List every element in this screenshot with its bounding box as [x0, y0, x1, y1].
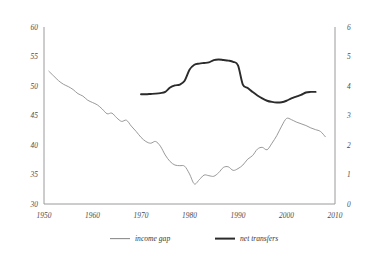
right-tick-label: 5 [347, 52, 351, 61]
series-group [49, 59, 325, 184]
x-tick-label: 2000 [279, 211, 294, 220]
right-tick-label: 2 [347, 141, 351, 150]
right-tick-label: 3 [346, 111, 351, 120]
axes-group [44, 27, 335, 204]
left-tick-label: 55 [31, 52, 39, 61]
left-tick-label: 50 [31, 82, 39, 91]
left-tick-label: 35 [30, 170, 39, 179]
right-tick-label: 0 [347, 200, 351, 209]
series-line-net-transfers [141, 59, 316, 102]
chart-legend: income gapnet transfers [110, 234, 278, 243]
legend-label-income-gap: income gap [135, 234, 170, 243]
chart-figure: 30354045505560 0123456 19501960197019801… [0, 0, 370, 257]
left-axis-tick-labels: 30354045505560 [30, 23, 39, 209]
left-tick-label: 40 [31, 141, 39, 150]
x-tick-label: 1960 [85, 211, 100, 220]
left-tick-label: 30 [30, 200, 39, 209]
left-tick-label: 60 [31, 23, 39, 32]
right-tick-label: 6 [347, 23, 351, 32]
series-line-income-gap [49, 71, 325, 184]
line-chart-canvas: 30354045505560 0123456 19501960197019801… [0, 0, 370, 257]
x-tick-label: 1950 [37, 211, 52, 220]
x-tick-label: 1980 [182, 211, 197, 220]
x-tick-label: 1970 [134, 211, 149, 220]
left-tick-label: 45 [31, 111, 39, 120]
x-tick-label: 1990 [231, 211, 246, 220]
right-tick-label: 1 [347, 170, 351, 179]
right-tick-label: 4 [347, 82, 351, 91]
legend-label-net-transfers: net transfers [240, 234, 278, 243]
x-axis-tick-labels: 1950196019701980199020002010 [37, 211, 343, 220]
right-axis-tick-labels: 0123456 [346, 23, 351, 209]
x-tick-label: 2010 [328, 211, 343, 220]
